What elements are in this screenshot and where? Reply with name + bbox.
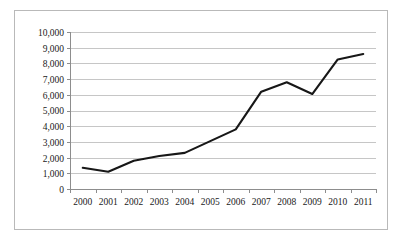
y-axis-tick-label: 3,000	[43, 138, 65, 148]
y-axis-tick-label: 1,000	[43, 169, 65, 179]
y-axis-tick-label: 8,000	[43, 59, 65, 69]
x-axis-tick-label: 2008	[277, 197, 296, 207]
y-axis-tick-label: 7,000	[43, 75, 65, 85]
y-axis-tick-label: 10,000	[38, 28, 64, 38]
x-axis-tick-label: 2010	[328, 197, 347, 207]
x-axis-tick-label: 2000	[73, 197, 92, 207]
x-axis-tick-label: 2011	[354, 197, 373, 207]
x-axis-tick-label: 2006	[226, 197, 245, 207]
x-axis-tick-label: 2003	[150, 197, 169, 207]
y-axis-tick-label: 2,000	[43, 154, 65, 164]
x-axis-tick-label: 2002	[124, 197, 143, 207]
y-axis-tick-label: 0	[59, 185, 64, 195]
x-axis-tick-label: 2007	[252, 197, 271, 207]
series-line	[83, 54, 364, 172]
x-axis-tick-label: 2005	[201, 197, 220, 207]
y-axis-tick-label: 9,000	[43, 44, 65, 54]
y-axis-tick-label: 6,000	[43, 91, 65, 101]
y-axis-tick-label: 5,000	[43, 106, 65, 116]
x-axis-tick-label: 2009	[303, 197, 322, 207]
x-axis-tick-label: 2001	[99, 197, 118, 207]
line-chart: 01,0002,0003,0004,0005,0006,0007,0008,00…	[15, 11, 389, 231]
chart-figure: 01,0002,0003,0004,0005,0006,0007,0008,00…	[14, 10, 388, 230]
y-axis-tick-label: 4,000	[43, 122, 65, 132]
x-axis-tick-label: 2004	[175, 197, 194, 207]
